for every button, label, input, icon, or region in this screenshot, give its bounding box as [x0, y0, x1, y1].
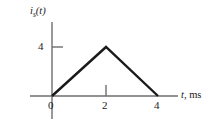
y-axis-label-argument: (t) — [36, 5, 46, 16]
x-tick-label-2: 2 — [102, 100, 108, 111]
waveform-line — [52, 47, 158, 96]
x-axis-label-unit: , ms — [184, 89, 202, 100]
x-axis-label: t, ms — [181, 90, 201, 101]
current-waveform-figure: is(t) t, ms 4 0 2 4 — [0, 0, 213, 125]
x-tick-label-4: 4 — [154, 100, 160, 111]
y-axis-label: is(t) — [30, 6, 46, 19]
y-tick-label-4: 4 — [38, 41, 44, 52]
x-tick-label-0: 0 — [48, 100, 54, 111]
